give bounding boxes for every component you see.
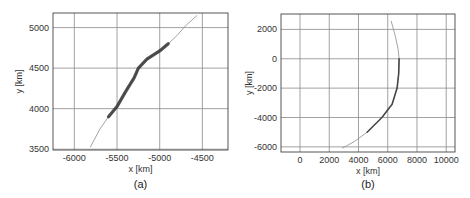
y-tick-label: 4500 xyxy=(29,63,49,73)
x-tick-label: 4000 xyxy=(348,155,368,165)
panel-caption: (a) xyxy=(134,178,147,190)
figure: -6000-5500-5000-45003500400045005000x [k… xyxy=(0,0,470,198)
x-tick-label: 6000 xyxy=(378,155,398,165)
plot-frame xyxy=(53,13,228,150)
y-axis-label: y [km] xyxy=(244,71,254,95)
series-line-dense xyxy=(109,44,169,117)
y-tick-label: -4000 xyxy=(254,113,277,123)
x-tick-label: 0 xyxy=(298,155,303,165)
y-tick-label: 3500 xyxy=(29,144,49,154)
y-tick-label: 4000 xyxy=(29,104,49,114)
y-tick-label: 5000 xyxy=(29,23,49,33)
y-tick-label: 0 xyxy=(272,54,277,64)
x-axis-label: x [km] xyxy=(356,166,380,176)
y-tick-label: -2000 xyxy=(254,83,277,93)
x-axis-label: x [km] xyxy=(129,164,153,174)
panel-b: 0200040006000800010000-6000-4000-2000020… xyxy=(244,14,459,190)
y-tick-label: -6000 xyxy=(254,142,277,152)
x-tick-label: -4500 xyxy=(191,153,214,163)
x-tick-label: 10000 xyxy=(434,155,459,165)
x-tick-label: -5500 xyxy=(106,153,129,163)
series-line-dense xyxy=(367,59,399,132)
series-line-thin xyxy=(90,15,197,147)
x-tick-label: -5000 xyxy=(148,153,171,163)
panel-caption: (b) xyxy=(361,178,374,190)
y-tick-label: 2000 xyxy=(257,24,277,34)
y-axis-label: y [km] xyxy=(14,70,24,94)
x-tick-label: 2000 xyxy=(319,155,339,165)
x-tick-label: 8000 xyxy=(407,155,427,165)
panel-a: -6000-5500-5000-45003500400045005000x [k… xyxy=(14,13,228,190)
x-tick-label: -6000 xyxy=(63,153,86,163)
